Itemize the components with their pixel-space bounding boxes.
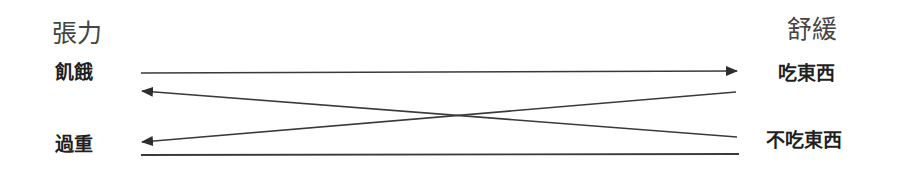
- connection-arrows: [0, 0, 912, 170]
- arrow-eat-to-overweight: [142, 92, 736, 142]
- arrow-hunger-to-eat: [141, 71, 737, 73]
- line-overweight-to-noteat: [141, 154, 739, 155]
- arrow-noteat-to-hunger: [142, 91, 737, 137]
